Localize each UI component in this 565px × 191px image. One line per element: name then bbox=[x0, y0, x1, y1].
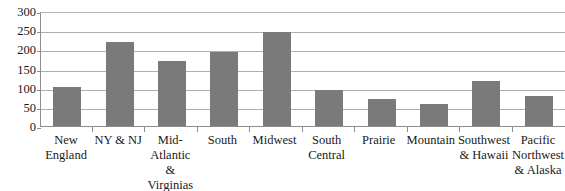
x-axis-category-label: New England bbox=[40, 133, 92, 191]
y-axis-labels: 050100150200250300 bbox=[0, 0, 36, 191]
x-axis-tick-mark bbox=[198, 127, 251, 132]
x-axis-category-label: Prairie bbox=[353, 133, 405, 191]
x-axis-tick-mark bbox=[408, 127, 461, 132]
bar[interactable] bbox=[368, 99, 396, 126]
x-axis-category-label: Midwest bbox=[248, 133, 300, 191]
bar[interactable] bbox=[420, 104, 448, 126]
bar-slot bbox=[146, 13, 198, 126]
bar-slot bbox=[93, 13, 145, 126]
x-axis-tick-mark bbox=[40, 127, 93, 132]
x-axis-category-label: Mountain bbox=[405, 133, 457, 191]
bar[interactable] bbox=[53, 87, 81, 126]
x-axis-category-label: South bbox=[196, 133, 248, 191]
x-axis-category-label: Mid-Atlantic & Virginias bbox=[144, 133, 196, 191]
bar-series bbox=[41, 13, 565, 126]
x-axis-tick-mark bbox=[460, 127, 513, 132]
y-axis-tick-label: 200 bbox=[0, 44, 36, 57]
y-axis-tick-label: 50 bbox=[0, 102, 36, 115]
y-axis-tick-label: 150 bbox=[0, 63, 36, 76]
x-axis-category-label: NY & NJ bbox=[92, 133, 144, 191]
bar-slot bbox=[460, 13, 512, 126]
x-axis-category-label: Southwest & Hawaii bbox=[457, 133, 511, 191]
y-axis-tick-label: 0 bbox=[0, 121, 36, 134]
x-axis-tick-mark bbox=[250, 127, 303, 132]
bar-slot bbox=[355, 13, 407, 126]
bar[interactable] bbox=[158, 61, 186, 126]
x-axis-tick-mark bbox=[145, 127, 198, 132]
x-axis-tick-mark bbox=[93, 127, 146, 132]
bar[interactable] bbox=[263, 32, 291, 126]
x-axis-labels: New EnglandNY & NJMid-Atlantic & Virgini… bbox=[40, 133, 565, 191]
x-axis-tick-mark bbox=[513, 127, 565, 132]
bar-slot bbox=[513, 13, 565, 126]
bar[interactable] bbox=[525, 96, 553, 126]
bar[interactable] bbox=[315, 90, 343, 126]
bar-slot bbox=[198, 13, 250, 126]
bar-slot bbox=[41, 13, 93, 126]
y-axis-tick-label: 300 bbox=[0, 6, 36, 19]
y-axis-tick-label: 100 bbox=[0, 82, 36, 95]
bar-slot bbox=[303, 13, 355, 126]
bar[interactable] bbox=[210, 52, 238, 126]
bar-slot bbox=[251, 13, 303, 126]
bar-slot bbox=[408, 13, 460, 126]
x-axis-ticks bbox=[40, 127, 565, 132]
x-axis-category-label: South Central bbox=[301, 133, 353, 191]
plot-area bbox=[40, 12, 565, 127]
bar-chart: 050100150200250300 New EnglandNY & NJMid… bbox=[0, 0, 565, 191]
x-axis-category-label: Pacific Northwest & Alaska bbox=[511, 133, 565, 191]
x-axis-tick-mark bbox=[303, 127, 356, 132]
bar[interactable] bbox=[106, 42, 134, 126]
x-axis-tick-mark bbox=[355, 127, 408, 132]
bar[interactable] bbox=[472, 81, 500, 126]
y-axis-tick-label: 250 bbox=[0, 25, 36, 38]
